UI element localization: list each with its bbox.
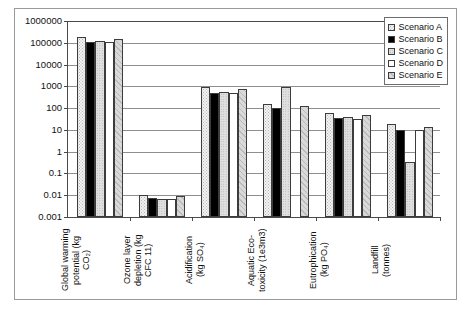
- y-tick-label: 0.1: [49, 169, 62, 179]
- bar-d-cat3: [229, 93, 238, 217]
- chart-legend: Scenario AScenario BScenario CScenario D…: [384, 17, 448, 85]
- bar-d-cat2: [167, 199, 176, 217]
- gridline: [68, 86, 440, 87]
- bar-c-cat3: [219, 92, 228, 217]
- legend-item-c[interactable]: Scenario C: [388, 45, 443, 57]
- gridline: [68, 152, 440, 153]
- bar-c-cat1: [95, 41, 104, 217]
- gridline: [68, 108, 440, 109]
- legend-item-d[interactable]: Scenario D: [388, 57, 443, 69]
- legend-label: Scenario C: [398, 47, 443, 56]
- y-tick-label: 10: [51, 125, 62, 135]
- y-tick-label: 10000: [36, 60, 62, 70]
- bar-d-cat6: [415, 130, 424, 217]
- legend-swatch-icon: [388, 72, 395, 79]
- bar-a-cat1: [77, 37, 86, 217]
- bar-e-cat1: [114, 39, 123, 217]
- chart-frame: 10000001000001000010001001010.10.010.001…: [14, 8, 457, 300]
- y-tick-mark: [64, 86, 68, 87]
- y-tick-label: 100: [46, 103, 62, 113]
- bar-a-cat4: [263, 104, 272, 217]
- bar-d-cat1: [105, 42, 114, 217]
- y-tick-label: 1000000: [25, 16, 62, 26]
- gridline: [68, 173, 440, 174]
- bar-e-cat3: [238, 89, 247, 217]
- y-tick-label: 100000: [30, 38, 62, 48]
- legend-swatch-icon: [388, 48, 395, 55]
- legend-swatch-icon: [388, 60, 395, 67]
- bar-c-cat2: [157, 199, 166, 217]
- x-axis-label-6: Landfill (tonnes): [370, 224, 446, 296]
- bar-a-cat5: [325, 113, 334, 217]
- x-axis-labels: Global warming potential (kg CO₂)Ozone l…: [67, 218, 440, 296]
- y-tick-mark: [64, 152, 68, 153]
- legend-item-b[interactable]: Scenario B: [388, 33, 443, 45]
- legend-label: Scenario E: [398, 71, 442, 80]
- y-tick-label: 0.01: [44, 190, 63, 200]
- bar-a-cat2: [139, 195, 148, 217]
- legend-item-a[interactable]: Scenario A: [388, 21, 443, 33]
- y-tick-label: 1000: [41, 82, 62, 92]
- x-tick-mark: [440, 217, 441, 221]
- gridline: [68, 130, 440, 131]
- legend-item-e[interactable]: Scenario E: [388, 69, 443, 81]
- bar-c-cat4: [281, 87, 290, 217]
- bar-c-cat6: [405, 162, 414, 217]
- bar-b-cat4: [272, 108, 281, 217]
- y-tick-label: 1: [57, 147, 62, 157]
- bar-a-cat3: [201, 87, 210, 217]
- legend-label: Scenario D: [398, 59, 443, 68]
- bar-b-cat2: [148, 198, 157, 217]
- bar-d-cat5: [353, 119, 362, 217]
- y-tick-mark: [64, 195, 68, 196]
- bar-c-cat5: [343, 117, 352, 217]
- y-tick-mark: [64, 21, 68, 22]
- legend-swatch-icon: [388, 24, 395, 31]
- bar-a-cat6: [387, 124, 396, 217]
- legend-label: Scenario B: [398, 35, 442, 44]
- bar-e-cat2: [176, 196, 185, 217]
- legend-label: Scenario A: [398, 23, 442, 32]
- gridline: [68, 195, 440, 196]
- y-tick-mark: [64, 108, 68, 109]
- bar-e-cat4: [300, 106, 309, 217]
- y-tick-mark: [64, 65, 68, 66]
- bar-b-cat5: [334, 118, 343, 217]
- bar-b-cat6: [396, 130, 405, 217]
- bar-b-cat1: [86, 42, 95, 217]
- bar-b-cat3: [210, 93, 219, 217]
- legend-swatch-icon: [388, 36, 395, 43]
- y-tick-mark: [64, 173, 68, 174]
- y-tick-mark: [64, 43, 68, 44]
- y-tick-label: 0.001: [38, 212, 62, 222]
- bar-e-cat6: [424, 127, 433, 217]
- y-tick-mark: [64, 130, 68, 131]
- bar-e-cat5: [362, 115, 371, 217]
